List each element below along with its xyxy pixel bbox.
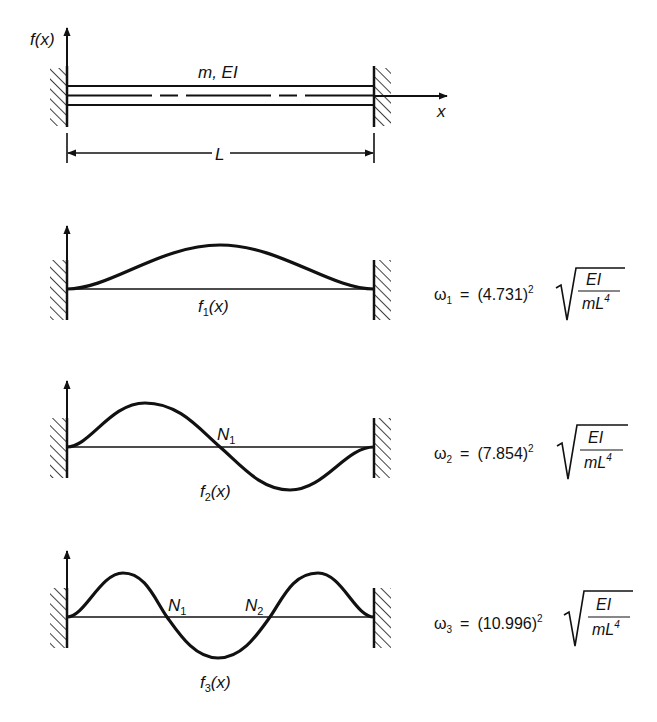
beam-modes-diagram: f(x) m, EI x L [0, 0, 657, 722]
y-axis-label: f(x) [30, 30, 55, 49]
mode-3-shape-label: f3(x) [200, 673, 231, 694]
svg-text:EI: EI [586, 271, 602, 288]
svg-text:EI: EI [596, 596, 612, 613]
right-wall-support [374, 260, 391, 320]
mode-3-node-1-label: N1 [168, 596, 186, 617]
left-wall-support [50, 418, 67, 478]
mode-2-node-1-label: N1 [217, 425, 235, 446]
mode-3-shape-curve [67, 573, 374, 658]
mode-2-diagram: N1 f2(x) [50, 381, 391, 503]
beam-definition: f(x) m, EI x L [30, 28, 447, 164]
left-wall-support [50, 66, 67, 127]
svg-text:ω1=(4.731)2: ω1=(4.731)2 [434, 284, 534, 306]
length-label: L [215, 145, 224, 164]
svg-text:ω3=(10.996)2: ω3=(10.996)2 [434, 613, 543, 635]
mode-1-diagram: f1(x) [50, 226, 391, 320]
mode-1-frequency-equation: ω1=(4.731)2 EI mL4 [434, 268, 625, 320]
svg-text:mL4: mL4 [582, 293, 610, 312]
mode-2-shape-label: f2(x) [200, 482, 231, 503]
svg-text:mL4: mL4 [592, 619, 620, 638]
omega-symbol: ω [434, 286, 447, 303]
right-wall-support [374, 418, 391, 478]
beam-property-label: m, EI [198, 63, 238, 82]
mode-3-frequency-equation: ω3=(10.996)2 EI mL4 [434, 591, 633, 646]
svg-text:ω2=(7.854)2: ω2=(7.854)2 [434, 443, 534, 465]
right-wall-support [374, 588, 391, 648]
svg-text:mL4: mL4 [584, 452, 612, 471]
beam-body [67, 86, 374, 105]
mode-1-shape-curve [67, 245, 374, 289]
left-wall-support [50, 588, 67, 648]
mode-1-shape-label: f1(x) [198, 297, 229, 318]
svg-text:EI: EI [588, 429, 604, 446]
mode-3-node-2-label: N2 [245, 596, 263, 617]
left-wall-support [50, 260, 67, 320]
mode-3-diagram: N1 N2 f3(x) [50, 551, 391, 694]
mode-2-frequency-equation: ω2=(7.854)2 EI mL4 [434, 425, 628, 479]
x-axis-label: x [436, 102, 446, 121]
